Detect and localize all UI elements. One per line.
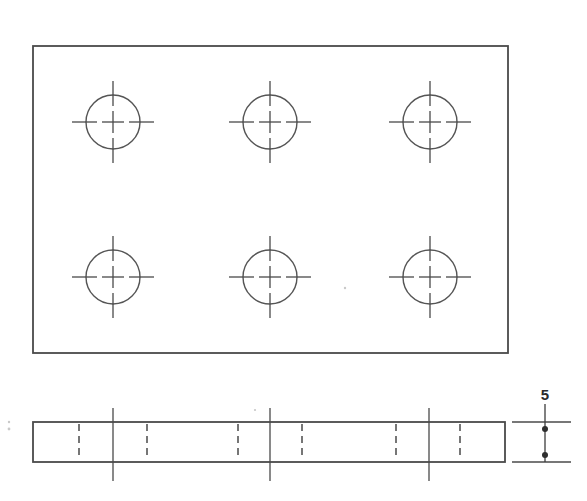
- hole-3: [389, 81, 471, 163]
- arrow-dot-1: [542, 426, 548, 432]
- front-view: [33, 408, 505, 481]
- scan-speck-2: [8, 421, 10, 423]
- hole-1: [72, 81, 154, 163]
- centerline-group-front-view: [113, 408, 429, 481]
- scan-speck-1: [8, 428, 11, 431]
- scan-speck-4: [254, 409, 256, 411]
- hole-2: [229, 81, 311, 163]
- hole-6: [389, 236, 471, 318]
- scan-artifact-group: [8, 287, 347, 431]
- plate-outline-front-view: [33, 422, 505, 462]
- hole-group: [72, 81, 471, 318]
- hole-4: [72, 236, 154, 318]
- drawing-svg: 5: [0, 0, 587, 501]
- technical-drawing-canvas: 5: [0, 0, 587, 501]
- hole-5: [229, 236, 311, 318]
- side-view-thickness: 5: [512, 386, 571, 462]
- extension-line-group: [512, 422, 571, 462]
- arrow-dot-2: [542, 452, 548, 458]
- dimension-label-thickness: 5: [541, 386, 549, 403]
- scan-speck-3: [344, 287, 346, 289]
- top-view: [33, 46, 508, 353]
